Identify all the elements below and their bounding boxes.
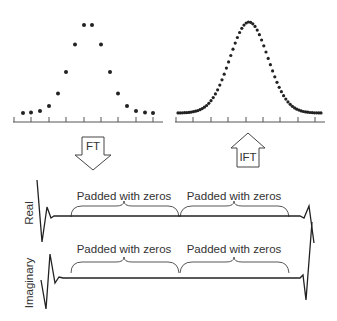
ft-arrow: FT [75, 137, 111, 170]
left-data-points [21, 23, 155, 115]
imaginary-brace-right [180, 257, 289, 273]
ift-arrow: IFT [231, 133, 265, 167]
real-axis-label: Real [23, 201, 35, 225]
real-brace-left [71, 201, 179, 217]
real-brace-right [180, 201, 289, 217]
left-sample-plot [13, 23, 163, 122]
left-axis-ticks [14, 117, 153, 122]
imaginary-brace-left [71, 257, 179, 273]
right-data-points [176, 20, 322, 114]
ift-label: IFT [239, 151, 256, 163]
imaginary-brace-label-left: Padded with zeros [77, 243, 172, 255]
imaginary-spectrum: Imaginary Padded with zeros Padded with … [23, 222, 312, 309]
real-brace-label-right: Padded with zeros [187, 190, 282, 202]
ft-label: FT [86, 140, 100, 152]
zero-padding-diagram: FT IFT Real Padded with zeros Padded wit… [0, 0, 337, 321]
real-brace-label-left: Padded with zeros [77, 190, 172, 202]
imaginary-brace-label-right: Padded with zeros [187, 243, 282, 255]
imaginary-axis-label: Imaginary [23, 258, 35, 309]
right-axis-ticks [176, 117, 315, 122]
real-spectrum: Real Padded with zeros Padded with zeros [23, 180, 314, 243]
right-interpolated-plot [175, 20, 325, 122]
